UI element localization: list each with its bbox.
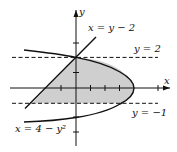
x-axis-label: x — [164, 76, 170, 86]
upper-bound-label: y = 2 — [134, 44, 161, 54]
shaded-region — [32, 57, 134, 103]
parabola-label: x = 4 − y² — [15, 124, 66, 134]
y-axis-arrow-icon — [74, 10, 79, 17]
y-axis-label: y — [79, 7, 85, 17]
line-label: x = y − 2 — [88, 23, 135, 33]
lower-bound-label: y = −1 — [132, 108, 167, 118]
region-diagram: y x x = y − 2 y = 2 y = −1 x = 4 − y² — [0, 0, 177, 152]
x-axis-arrow-icon — [163, 86, 170, 91]
